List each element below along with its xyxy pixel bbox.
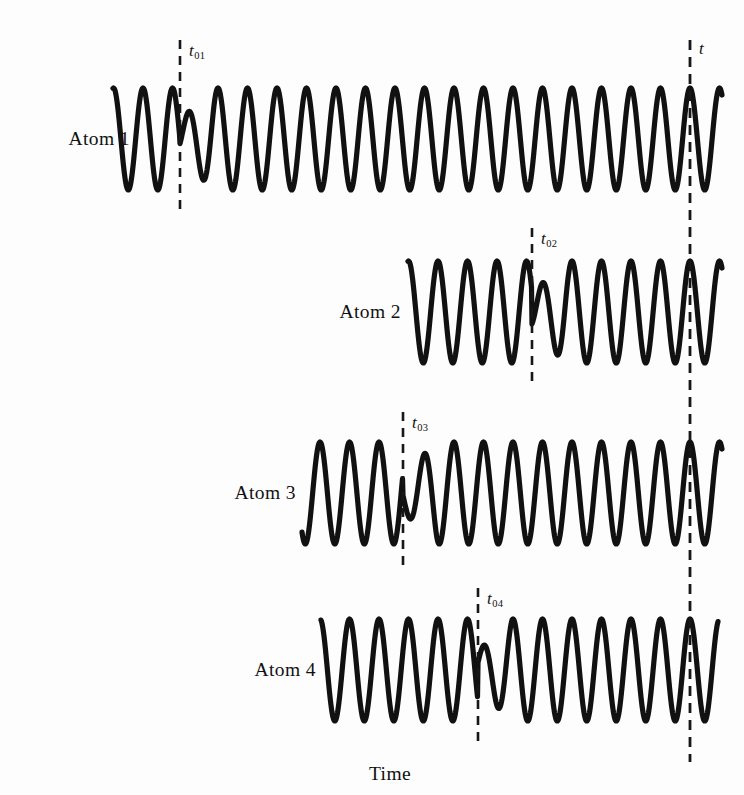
wave-trace-atom-3 [302, 442, 722, 544]
marker-label-t01: t01 [189, 42, 205, 59]
row-label-atom-4: Atom 4 [0, 659, 316, 681]
marker-label-t04: t04 [487, 590, 503, 607]
row-label-atom-3: Atom 3 [0, 482, 296, 504]
axis-label-time: Time [369, 763, 411, 785]
row-label-atom-1: Atom 1 [0, 128, 130, 150]
wave-trace-atom-1 [113, 88, 722, 190]
row-label-atom-2: Atom 2 [0, 301, 401, 323]
wave-trace-atom-2 [408, 261, 722, 363]
marker-label-t-global: t [699, 40, 704, 57]
marker-label-t02: t02 [541, 230, 557, 247]
figure-root: Atom 1 Atom 2 Atom 3 Atom 4 t01 t02 t03 … [0, 0, 744, 795]
wave-trace-atom-4 [321, 619, 718, 721]
marker-label-t03: t03 [412, 414, 428, 431]
